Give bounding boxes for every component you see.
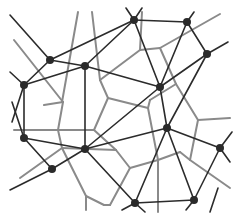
delaunay-voronoi-diagram [0, 0, 240, 220]
delaunay-edge [85, 66, 160, 87]
node-b [81, 62, 89, 70]
voronoi-edge [180, 152, 190, 160]
delaunay-edge [167, 128, 194, 200]
node-a [46, 56, 54, 64]
voronoi-edge [44, 102, 63, 105]
node-k [163, 124, 171, 132]
delaunay-edge [160, 87, 167, 128]
voronoi-edge [100, 80, 108, 98]
delaunay-edge [12, 102, 24, 138]
node-f [203, 50, 211, 58]
node-l [216, 144, 224, 152]
delaunay-edge [12, 85, 24, 122]
voronoi-edge [130, 160, 158, 168]
voronoi-edge [86, 196, 104, 205]
delaunay-edges [10, 8, 232, 212]
voronoi-edge [62, 12, 78, 102]
node-h [20, 134, 28, 142]
delaunay-edge [134, 20, 160, 87]
node-j [48, 165, 56, 173]
voronoi-edge [190, 160, 230, 188]
delaunay-edge [210, 188, 218, 212]
voronoi-edge [140, 48, 160, 50]
delaunay-edge [135, 200, 194, 203]
voronoi-edge [94, 98, 108, 130]
voronoi-edge [140, 12, 142, 50]
node-n [190, 196, 198, 204]
voronoi-edges [14, 12, 230, 212]
delaunay-edge [167, 54, 207, 128]
node-g [156, 83, 164, 91]
voronoi-edge [198, 118, 230, 120]
voronoi-edge [116, 150, 130, 168]
voronoi-edge [148, 100, 150, 108]
node-e [183, 18, 191, 26]
voronoi-edge [58, 102, 63, 130]
delaunay-edge [50, 20, 134, 60]
delaunay-edge [85, 149, 135, 203]
delaunay-edge [50, 60, 85, 66]
voronoi-edge [20, 148, 62, 178]
node-m [131, 199, 139, 207]
voronoi-edge [108, 98, 148, 108]
delaunay-edge [10, 169, 52, 190]
node-c [20, 81, 28, 89]
node-d [130, 16, 138, 24]
node-i [81, 145, 89, 153]
delaunay-edge [10, 15, 50, 60]
